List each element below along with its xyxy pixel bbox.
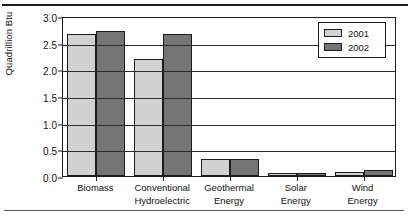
- x-axis-label-line: Geothermal: [196, 182, 263, 195]
- chart-figure: Quadrillion Btu 0.00.51.01.52.02.53.0 Bi…: [0, 0, 412, 220]
- top-divider-rule: [2, 4, 408, 6]
- y-gridline: [63, 125, 395, 126]
- y-tick-mark: [58, 151, 63, 152]
- y-tick-mark: [58, 178, 63, 179]
- y-gridline: [63, 98, 395, 99]
- y-tick-label: 0.5: [43, 146, 57, 157]
- y-tick-label: 2.0: [43, 66, 57, 77]
- bar-2001: [201, 159, 230, 176]
- bar-2002: [163, 34, 192, 176]
- x-axis-label-line: Biomass: [62, 182, 129, 195]
- y-gridline: [63, 151, 395, 152]
- x-axis-label-line: Solar: [262, 182, 329, 195]
- x-axis-label: Biomass: [62, 182, 129, 195]
- y-axis-title: Quadrillion Btu: [3, 0, 14, 104]
- y-tick-label: 3.0: [43, 13, 57, 24]
- y-tick-mark: [58, 98, 63, 99]
- legend-swatch-2002: [324, 43, 342, 51]
- x-tick-mark: [297, 176, 298, 181]
- x-axis-label-line: Energy: [262, 195, 329, 208]
- legend-label-2001: 2001: [348, 28, 369, 39]
- bar-2002: [230, 159, 259, 176]
- x-axis-labels: BiomassConventionalHydroelectricGeotherm…: [62, 182, 396, 214]
- chart-legend: 2001 2002: [318, 22, 386, 58]
- y-gridline: [63, 71, 395, 72]
- x-axis-label-line: Energy: [329, 195, 396, 208]
- legend-entry-2001: 2001: [324, 26, 385, 40]
- bar-2002: [96, 31, 125, 176]
- x-axis-label-line: Conventional: [129, 182, 196, 195]
- legend-swatch-2001: [324, 29, 342, 37]
- y-tick-label: 2.5: [43, 39, 57, 50]
- y-tick-label: 1.5: [43, 93, 57, 104]
- x-axis-label: WindEnergy: [329, 182, 396, 207]
- bar-2001: [268, 173, 297, 176]
- x-axis-label-line: Energy: [196, 195, 263, 208]
- legend-label-2002: 2002: [348, 42, 369, 53]
- x-tick-mark: [163, 176, 164, 181]
- x-axis-label: ConventionalHydroelectric: [129, 182, 196, 207]
- bar-2001: [67, 34, 96, 176]
- x-tick-mark: [96, 176, 97, 181]
- y-tick-label: 1.0: [43, 119, 57, 130]
- y-tick-label: 0.0: [43, 173, 57, 184]
- legend-entry-2002: 2002: [324, 40, 385, 54]
- x-tick-mark: [364, 176, 365, 181]
- bar-2001: [335, 172, 364, 176]
- y-tick-mark: [58, 44, 63, 45]
- bar-2002: [297, 173, 326, 176]
- y-tick-mark: [58, 71, 63, 72]
- x-axis-label: SolarEnergy: [262, 182, 329, 207]
- x-axis-label-line: Hydroelectric: [129, 195, 196, 208]
- x-tick-mark: [230, 176, 231, 181]
- y-tick-mark: [58, 18, 63, 19]
- bar-2002: [364, 170, 393, 176]
- x-axis-label-line: Wind: [329, 182, 396, 195]
- y-tick-mark: [58, 124, 63, 125]
- x-axis-label: GeothermalEnergy: [196, 182, 263, 207]
- bar-2001: [134, 59, 163, 176]
